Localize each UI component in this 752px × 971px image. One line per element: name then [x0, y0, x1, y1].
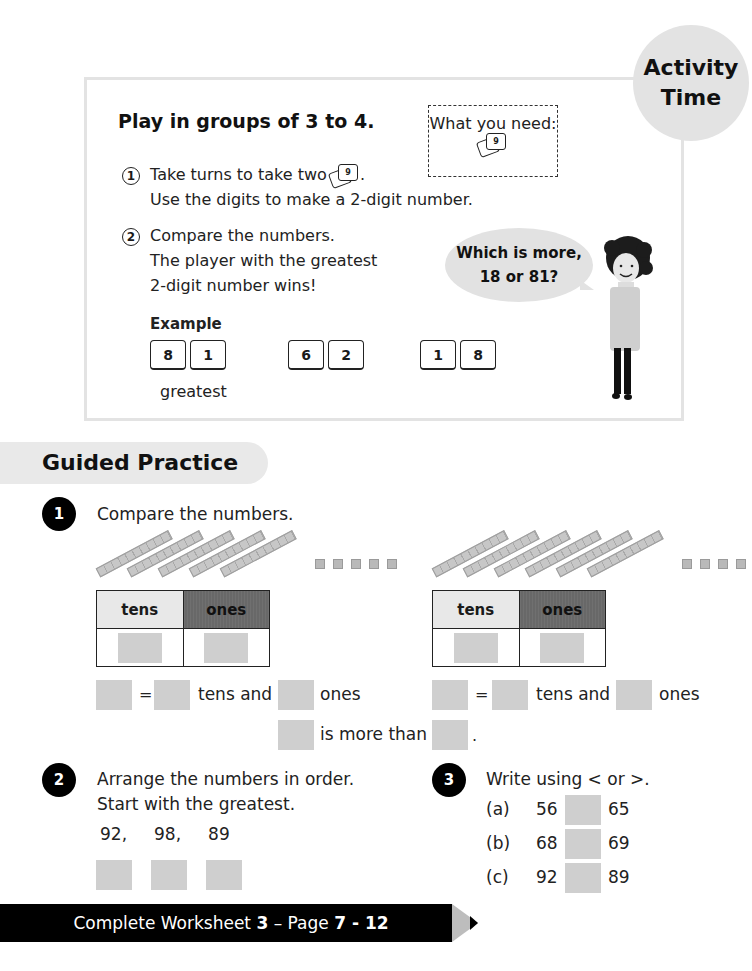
- equals-sign: =: [139, 683, 152, 707]
- tens-cell: [433, 629, 520, 667]
- is-more-than-label: is more than: [320, 722, 427, 746]
- tens-answer-blank[interactable]: [118, 633, 162, 663]
- ones-answer-blank[interactable]: [204, 633, 248, 663]
- question-number-2: 2: [42, 763, 76, 797]
- greatest-label: greatest: [160, 380, 227, 404]
- ones-count-blank[interactable]: [278, 680, 314, 710]
- q3-left-number: 92: [536, 865, 558, 889]
- comparison-sign-blank[interactable]: [565, 795, 601, 825]
- ones-cube: [369, 559, 379, 569]
- ones-cube: [718, 559, 728, 569]
- guided-practice-header: Guided Practice: [0, 442, 268, 484]
- tens-answer-blank[interactable]: [454, 633, 498, 663]
- number-card-icon: 9: [330, 164, 360, 188]
- tens-count-blank[interactable]: [492, 680, 528, 710]
- ones-cube: [700, 559, 710, 569]
- tens-cell: [97, 629, 184, 667]
- ones-label: ones: [320, 682, 361, 706]
- ones-count-blank[interactable]: [616, 680, 652, 710]
- step-number-1: 1: [122, 167, 140, 185]
- question-number-3: 3: [432, 763, 466, 797]
- footer-pages: 7 - 12: [334, 913, 388, 933]
- tens-and-label: tens and: [198, 682, 272, 706]
- order-blank-1[interactable]: [96, 860, 132, 890]
- step-1-line-2: Use the digits to make a 2-digit number.: [150, 188, 473, 212]
- number-answer-blank[interactable]: [432, 680, 468, 710]
- step-2-line-3: 2-digit number wins!: [150, 274, 316, 298]
- what-you-need-box: What you need: 9: [428, 105, 558, 177]
- footer-mid: – Page: [268, 913, 334, 933]
- step-2-line-2: The player with the greatest: [150, 249, 377, 273]
- step-2-line-1: Compare the numbers.: [150, 224, 335, 248]
- q2-prompt-line2: Start with the greatest.: [97, 792, 295, 816]
- q2-numbers: 92, 98, 89: [100, 822, 230, 846]
- tens-count-blank[interactable]: [154, 680, 190, 710]
- ones-answer-blank[interactable]: [540, 633, 584, 663]
- ones-cell: [519, 629, 606, 667]
- order-blank-3[interactable]: [206, 860, 242, 890]
- example-card: 2: [328, 340, 364, 370]
- q3-item-label: (b): [486, 831, 510, 855]
- q2-prompt-line1: Arrange the numbers in order.: [97, 767, 354, 791]
- number-card-icon: 9: [478, 133, 508, 157]
- play-triangle-icon: [470, 916, 478, 930]
- badge-line2: Time: [661, 83, 721, 113]
- equals-sign: =: [475, 683, 488, 707]
- speech-bubble: Which is more, 18 or 81?: [445, 228, 593, 302]
- ones-cell: [183, 629, 270, 667]
- step-number-2: 2: [122, 228, 140, 246]
- tens-and-label: tens and: [536, 682, 610, 706]
- number-answer-blank[interactable]: [96, 680, 132, 710]
- example-card: 6: [288, 340, 324, 370]
- q3-prompt: Write using < or >.: [486, 767, 650, 791]
- example-card: 8: [460, 340, 496, 370]
- child-character-illustration: [600, 230, 660, 400]
- ones-cube: [351, 559, 361, 569]
- badge-line1: Activity: [644, 53, 739, 83]
- ones-header: ones: [183, 591, 270, 629]
- q3-right-number: 69: [608, 831, 630, 855]
- footer-worksheet-number: 3: [256, 913, 268, 933]
- footer-prefix: Complete Worksheet: [73, 913, 256, 933]
- ones-cube: [315, 559, 325, 569]
- example-label: Example: [150, 312, 222, 336]
- q3-left-number: 68: [536, 831, 558, 855]
- step-1-line-1: Take turns to take two 9 .: [150, 163, 365, 188]
- lesser-number-blank[interactable]: [432, 720, 468, 750]
- ones-cube: [736, 559, 746, 569]
- greater-number-blank[interactable]: [278, 720, 314, 750]
- ones-label: ones: [659, 682, 700, 706]
- ones-header: ones: [519, 591, 606, 629]
- q3-item-label: (c): [486, 865, 509, 889]
- example-card: 1: [190, 340, 226, 370]
- tens-header: tens: [433, 591, 520, 629]
- example-card: 1: [420, 340, 456, 370]
- q3-right-number: 65: [608, 797, 630, 821]
- tens-header: tens: [97, 591, 184, 629]
- activity-time-badge: Activity Time: [633, 25, 749, 141]
- place-value-table-right: tens ones: [432, 590, 606, 667]
- ones-cube: [682, 559, 692, 569]
- order-blank-2[interactable]: [151, 860, 187, 890]
- q3-item-label: (a): [486, 797, 510, 821]
- q1-prompt: Compare the numbers.: [97, 502, 293, 526]
- period: .: [472, 724, 477, 748]
- ones-cube: [333, 559, 343, 569]
- example-card: 8: [150, 340, 186, 370]
- q3-left-number: 56: [536, 797, 558, 821]
- what-you-need-label: What you need:: [429, 114, 557, 133]
- speech-bubble-tail: [580, 280, 594, 290]
- worksheet-footer-banner: Complete Worksheet 3 – Page 7 - 12: [0, 904, 452, 942]
- q3-right-number: 89: [608, 865, 630, 889]
- comparison-sign-blank[interactable]: [565, 829, 601, 859]
- comparison-sign-blank[interactable]: [565, 863, 601, 893]
- question-number-1: 1: [42, 497, 76, 531]
- activity-title: Play in groups of 3 to 4.: [118, 110, 374, 132]
- place-value-table-left: tens ones: [96, 590, 270, 667]
- ones-cube: [387, 559, 397, 569]
